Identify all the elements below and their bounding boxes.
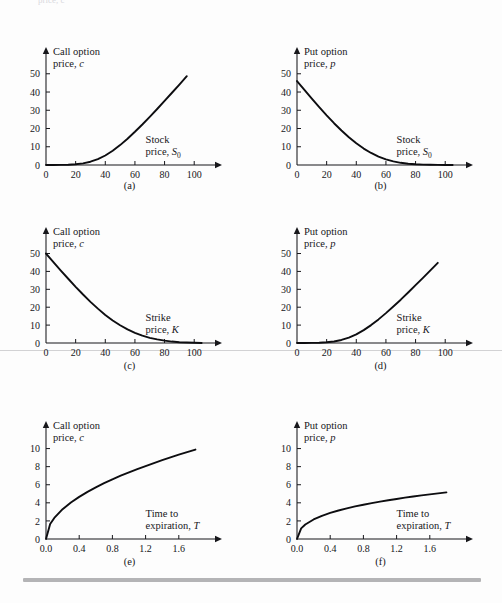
svg-text:20: 20 [30,123,40,134]
figure-page: price, c 02040608010001020304050Call opt… [0,0,502,603]
top-cut-text: price, c [38,0,238,5]
svg-text:Put option: Put option [304,420,348,431]
svg-text:6: 6 [286,479,291,490]
panel-c: 02040608010001020304050Call optionprice,… [8,198,251,358]
svg-text:price, p: price, p [304,432,336,443]
svg-text:30: 30 [30,105,40,116]
svg-text:Put option: Put option [304,46,348,57]
svg-text:0.4: 0.4 [324,543,337,554]
svg-text:50: 50 [281,248,291,259]
svg-text:10: 10 [281,141,291,152]
svg-text:40: 40 [100,169,110,180]
caption-d: (d) [259,360,502,371]
svg-text:50: 50 [281,68,291,79]
svg-text:60: 60 [381,347,391,358]
panel-d: 02040608010001020304050Put optionprice, … [259,198,502,358]
svg-text:10: 10 [30,443,40,454]
svg-text:20: 20 [322,169,332,180]
svg-text:80: 80 [411,169,421,180]
svg-text:Call option: Call option [53,46,101,57]
chart-c: 02040608010001020304050Call optionprice,… [8,198,251,358]
svg-text:Strike: Strike [146,312,171,323]
svg-text:20: 20 [322,347,332,358]
svg-text:1.6: 1.6 [173,543,186,554]
svg-text:20: 20 [281,123,291,134]
svg-text:40: 40 [100,347,110,358]
svg-text:Strike: Strike [397,312,422,323]
svg-text:price, c: price, c [53,432,84,443]
svg-text:Time to: Time to [146,508,179,519]
svg-text:10: 10 [30,320,40,331]
panel-a: 02040608010001020304050Call optionprice,… [8,14,251,180]
svg-text:100: 100 [187,169,202,180]
chart-a: 02040608010001020304050Call optionprice,… [8,14,251,180]
svg-text:0.0: 0.0 [291,543,304,554]
svg-text:0: 0 [286,338,291,349]
svg-text:2: 2 [286,516,291,527]
chart-d: 02040608010001020304050Put optionprice, … [259,198,502,358]
svg-text:20: 20 [71,347,81,358]
svg-text:0: 0 [35,338,40,349]
svg-text:10: 10 [281,320,291,331]
svg-text:price, K: price, K [397,324,431,335]
svg-text:0: 0 [35,534,40,545]
panel-b: 02040608010001020304050Put optionprice, … [259,14,502,180]
svg-text:40: 40 [281,87,291,98]
panel-f: 0.00.40.81.21.60246810Put optionprice, p… [259,388,502,554]
svg-text:price, K: price, K [146,324,180,335]
svg-text:price, p: price, p [304,58,336,69]
svg-text:0: 0 [295,169,300,180]
svg-text:Call option: Call option [53,420,101,431]
svg-text:50: 50 [30,68,40,79]
chart-b: 02040608010001020304050Put optionprice, … [259,14,502,180]
svg-text:Stock: Stock [397,134,422,145]
svg-text:40: 40 [30,87,40,98]
svg-text:0: 0 [44,169,49,180]
panel-e: 0.00.40.81.21.60246810Call optionprice, … [8,388,251,554]
svg-text:Stock: Stock [146,134,171,145]
svg-text:8: 8 [286,461,291,472]
svg-text:Put option: Put option [304,226,348,237]
chart-e: 0.00.40.81.21.60246810Call optionprice, … [8,388,251,554]
svg-text:Time to: Time to [397,508,430,519]
svg-text:60: 60 [130,347,140,358]
svg-text:price, c: price, c [53,238,84,249]
svg-text:0.8: 0.8 [106,543,119,554]
svg-text:price, S0: price, S0 [146,146,182,160]
svg-text:4: 4 [286,497,291,508]
svg-text:0: 0 [35,160,40,171]
svg-text:expiration, T: expiration, T [146,520,201,531]
svg-text:0: 0 [286,160,291,171]
svg-text:80: 80 [160,169,170,180]
svg-text:40: 40 [30,266,40,277]
svg-text:20: 20 [30,302,40,313]
svg-text:40: 40 [351,347,361,358]
caption-e: (e) [8,556,251,567]
svg-text:60: 60 [381,169,391,180]
svg-text:1.2: 1.2 [139,543,152,554]
svg-text:0.8: 0.8 [357,543,370,554]
svg-text:40: 40 [351,169,361,180]
svg-text:40: 40 [281,266,291,277]
svg-text:0: 0 [44,347,49,358]
svg-text:20: 20 [281,302,291,313]
svg-text:6: 6 [35,479,40,490]
svg-text:0: 0 [295,347,300,358]
svg-text:10: 10 [281,443,291,454]
svg-text:80: 80 [160,347,170,358]
caption-f: (f) [259,556,502,567]
svg-text:2: 2 [35,516,40,527]
svg-text:1.6: 1.6 [424,543,437,554]
chart-f: 0.00.40.81.21.60246810Put optionprice, p… [259,388,502,554]
section-divider-rule [23,578,481,582]
caption-b: (b) [259,180,502,191]
svg-text:100: 100 [438,169,453,180]
svg-text:10: 10 [30,141,40,152]
svg-text:Call option: Call option [53,226,101,237]
caption-a: (a) [8,180,251,191]
svg-text:100: 100 [438,347,453,358]
svg-text:8: 8 [35,461,40,472]
svg-text:80: 80 [411,347,421,358]
svg-text:50: 50 [30,248,40,259]
svg-text:30: 30 [281,105,291,116]
